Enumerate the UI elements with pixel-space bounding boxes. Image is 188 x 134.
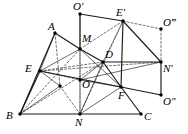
vertex-dot-C — [139, 112, 142, 115]
vertex-dot-Oprime — [78, 12, 81, 15]
point-label-N: N — [75, 117, 82, 128]
thin-segments-group — [20, 33, 161, 114]
dashed-P-N — [60, 86, 80, 114]
vertex-dot-M — [78, 47, 81, 50]
point-label-Otriple: O‴ — [163, 17, 176, 28]
segment-Eprime-Nprime — [123, 21, 161, 62]
point-label-Oprime: O′ — [73, 1, 83, 12]
vertex-dot-D — [101, 60, 104, 63]
geometry-figure: O′E′O‴AMDN′EOFO″BNC — [0, 0, 188, 134]
segment-F-Odouble — [121, 87, 161, 95]
thin-O-Nprime — [80, 62, 161, 80]
vertex-dot-Eprime — [121, 19, 124, 22]
dashed-A-P — [55, 33, 60, 86]
point-label-E: E — [25, 63, 32, 74]
point-label-F: F — [118, 90, 125, 101]
point-label-O: O — [82, 79, 90, 90]
point-label-Odouble: O″ — [163, 96, 176, 107]
point-label-D: D — [105, 49, 113, 60]
point-label-Eprime: E′ — [116, 7, 125, 18]
thin-E-M — [40, 49, 80, 71]
point-label-A: A — [48, 21, 55, 32]
segment-Eprime-F — [121, 21, 123, 87]
segment-AM — [55, 33, 80, 49]
point-label-Nprime: N′ — [163, 63, 173, 74]
segment-BE — [20, 71, 40, 114]
dashed-B-M — [20, 49, 80, 114]
vertex-dot-E — [38, 69, 41, 72]
vertex-dot-P — [58, 84, 61, 87]
point-label-M: M — [82, 33, 91, 44]
point-label-C: C — [144, 111, 151, 122]
point-label-B: B — [6, 110, 13, 121]
vertex-dot-B — [18, 112, 21, 115]
